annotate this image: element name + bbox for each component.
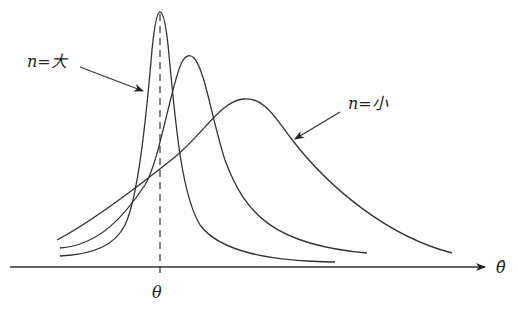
- curve-small-n: [57, 99, 452, 253]
- label-n-small: n=小: [348, 90, 388, 114]
- label-n-large: n=大: [27, 48, 67, 72]
- label-theta-hat: θ̂: [496, 258, 506, 277]
- arrow-n-large: [80, 67, 143, 91]
- diagram-canvas: [0, 0, 518, 319]
- curve-medium-n: [60, 56, 367, 253]
- arrow-n-small: [295, 112, 340, 139]
- curve-large-n: [60, 12, 335, 262]
- label-theta: θ: [152, 283, 162, 302]
